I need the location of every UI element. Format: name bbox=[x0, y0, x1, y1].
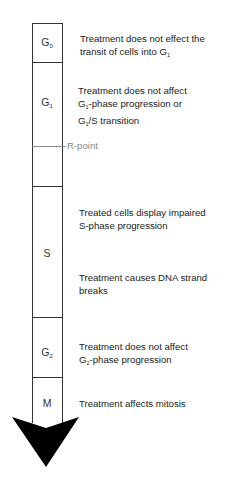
column-right-edge bbox=[62, 23, 63, 423]
annotation-m: Treatment affects mitosis bbox=[79, 397, 186, 410]
phase-label-g1: G1 bbox=[32, 96, 62, 109]
annotation-s-progression: Treated cells display impaired S-phase p… bbox=[79, 206, 206, 232]
r-point-line bbox=[32, 146, 66, 147]
divider-s-g2 bbox=[32, 317, 63, 318]
annotation-g1: Treatment does not affect G1-phase progr… bbox=[78, 84, 187, 131]
column-top-edge bbox=[32, 23, 63, 24]
phase-label-m: M bbox=[32, 397, 62, 409]
down-arrow-icon bbox=[0, 400, 100, 480]
column-left-edge bbox=[32, 23, 33, 423]
annotation-g2: Treatment does not affect G2-phase progr… bbox=[79, 340, 188, 370]
r-point-label: R-point bbox=[67, 140, 98, 151]
annotation-g0: Treatment does not effect the transit of… bbox=[80, 32, 205, 62]
divider-g2-m bbox=[32, 377, 63, 378]
divider-g1-s bbox=[32, 186, 63, 187]
phase-label-s: S bbox=[32, 247, 62, 259]
annotation-s-dna-breaks: Treatment causes DNA strand breaks bbox=[79, 271, 207, 297]
phase-label-g2: G2 bbox=[32, 346, 62, 359]
divider-g0-g1 bbox=[32, 62, 63, 63]
phase-label-g0: G0 bbox=[32, 36, 62, 49]
